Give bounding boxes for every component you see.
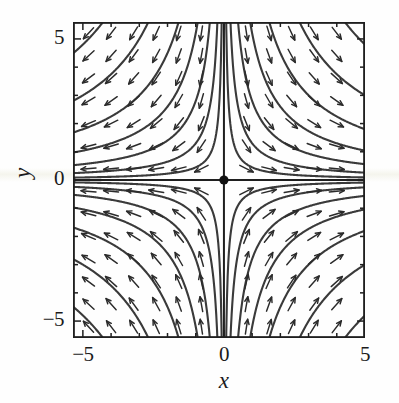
equilibrium-point-marker bbox=[219, 175, 228, 184]
plot-area bbox=[73, 22, 365, 338]
x-axis-title: x bbox=[202, 368, 246, 394]
x-tick-label-5: 5 bbox=[344, 342, 386, 367]
x-tick-label-0: 0 bbox=[203, 342, 245, 367]
x-tick-label-minus-5: −5 bbox=[61, 342, 105, 367]
phase-portrait-canvas bbox=[73, 22, 365, 338]
y-tick-label-5: 5 bbox=[28, 25, 64, 50]
y-axis-title: y bbox=[10, 156, 36, 190]
phase-portrait-figure: 5 0 −5 −5 0 5 y x bbox=[0, 0, 399, 403]
y-tick-label-minus-5: −5 bbox=[20, 307, 64, 332]
